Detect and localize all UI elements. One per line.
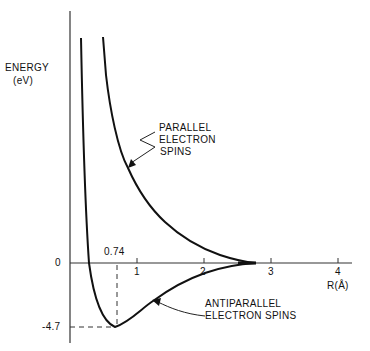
y-tick-0-label: 0 <box>55 257 61 269</box>
parallel-label-line3: SPINS <box>160 146 192 158</box>
parallel-label-line1: PARALLEL <box>159 122 211 134</box>
equilibrium-label: 0.74 <box>104 246 125 258</box>
x-axis-title: R(Å) <box>327 280 349 292</box>
antiparallel-arrowhead-icon <box>152 298 161 306</box>
parallel-leader-line <box>131 132 155 163</box>
antiparallel-leader-line <box>158 302 205 316</box>
y-axis-unit: (eV) <box>13 75 33 87</box>
x-tick-3-label: 3 <box>268 266 274 278</box>
energy-curve-chart <box>0 0 370 351</box>
x-tick-1-label: 1 <box>134 266 140 278</box>
antiparallel-label-line2: ELECTRON SPINS <box>205 310 296 322</box>
antiparallel-label-line1: ANTIPARALLEL <box>205 298 281 310</box>
x-tick-4-label: 4 <box>335 266 341 278</box>
y-tick-min-label: -4.7 <box>42 321 60 333</box>
parallel-label-line2: ELECTRON <box>159 134 216 146</box>
y-axis-title: ENERGY <box>5 62 49 74</box>
x-tick-2-label: 2 <box>200 266 206 278</box>
